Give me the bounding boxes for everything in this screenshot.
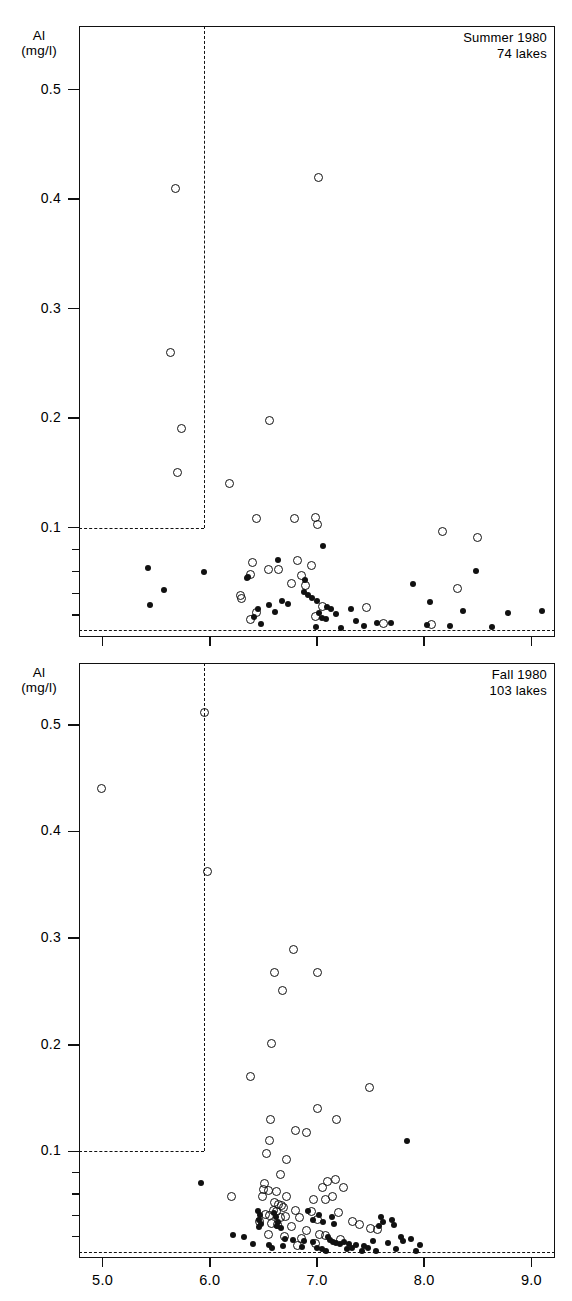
panel-title: Fall 1980 (492, 667, 547, 682)
x-tick (102, 1258, 104, 1267)
plot-frame-fall (79, 663, 555, 1258)
y-tick-major (68, 1044, 79, 1046)
y-tick-minor (72, 593, 79, 594)
y-tick-label: 0.4 (3, 822, 61, 838)
x-tick-label: 7.0 (287, 1272, 347, 1288)
x-tick (102, 637, 104, 646)
y-tick-minor (72, 1215, 79, 1216)
y-tick-minor (72, 549, 79, 550)
y-axis-label-text: Al (33, 28, 45, 43)
x-tick (316, 637, 318, 646)
figure-root: Al (mg/l) Summer 1980 74 lakes 0.10.20.3… (0, 0, 572, 1301)
y-tick-major (68, 308, 79, 310)
x-tick (316, 1258, 318, 1267)
y-tick-label: 0.3 (3, 300, 61, 316)
panel-subtitle: 103 lakes (490, 683, 547, 698)
y-tick-major (68, 724, 79, 726)
x-tick-label: 6.0 (180, 1272, 240, 1288)
y-tick-major (68, 89, 79, 91)
x-tick-label: 8.0 (394, 1272, 454, 1288)
y-tick-label: 0.4 (3, 190, 61, 206)
y-axis-units-text: (mg/l) (21, 43, 57, 58)
x-tick (209, 1258, 211, 1267)
y-tick-major (68, 831, 79, 833)
y-tick-label: 0.2 (3, 409, 61, 425)
y-tick-major (68, 417, 79, 419)
y-tick-major (68, 937, 79, 939)
y-tick-major (68, 527, 79, 529)
x-tick (423, 1258, 425, 1267)
y-axis-label-fall: Al (mg/l) (6, 665, 72, 695)
x-tick (531, 637, 533, 646)
y-axis-label-text: Al (33, 665, 45, 680)
panel-title: Summer 1980 (463, 30, 547, 45)
panel-subtitle: 74 lakes (497, 46, 547, 61)
plot-frame-summer (79, 26, 555, 637)
x-tick (531, 1258, 533, 1267)
y-tick-label: 0.1 (3, 519, 61, 535)
x-tick-label: 5.0 (73, 1272, 133, 1288)
y-tick-minor (72, 571, 79, 572)
y-tick-minor (72, 1193, 79, 1194)
x-tick (209, 637, 211, 646)
y-axis-units-text: (mg/l) (21, 680, 57, 695)
panel-summer: Al (mg/l) Summer 1980 74 lakes 0.10.20.3… (0, 0, 572, 650)
y-tick-major (68, 198, 79, 200)
y-tick-label: 0.1 (3, 1142, 61, 1158)
y-tick-minor (72, 1236, 79, 1237)
y-tick-minor (72, 614, 79, 615)
y-axis-label-summer: Al (mg/l) (6, 28, 72, 58)
x-tick-label: 9.0 (501, 1272, 561, 1288)
panel-annotation-fall: Fall 1980 103 lakes (490, 667, 547, 698)
y-tick-label: 0.5 (3, 716, 61, 732)
x-tick (423, 637, 425, 646)
y-tick-minor (72, 1172, 79, 1173)
panel-annotation-summer: Summer 1980 74 lakes (463, 30, 547, 61)
y-tick-label: 0.5 (3, 81, 61, 97)
y-tick-label: 0.3 (3, 929, 61, 945)
y-tick-major (68, 1151, 79, 1153)
y-tick-label: 0.2 (3, 1036, 61, 1052)
panel-fall: Al (mg/l) Fall 1980 103 lakes 0.10.20.30… (0, 650, 572, 1301)
